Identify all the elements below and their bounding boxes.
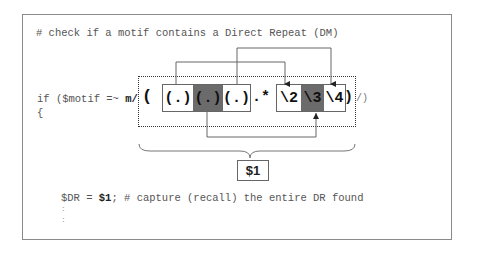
curly-brace (139, 144, 355, 158)
connector-group1-to-backref2 (176, 62, 285, 84)
connector-group2-to-backref3 (207, 112, 316, 137)
assign-value: $1 (99, 192, 112, 204)
assignment-line: $DR = $1; # capture (recall) the entire … (61, 192, 363, 204)
assign-var: $DR = (61, 192, 99, 204)
connector-arrows (0, 0, 477, 253)
connector-group3-to-backref4 (237, 48, 331, 84)
dollar1-label-box: $1 (237, 160, 269, 181)
arrow-up-icon (313, 113, 319, 119)
ellipsis-2: : (61, 214, 66, 226)
assign-comment: ; # capture (recall) the entire DR found (111, 192, 363, 204)
